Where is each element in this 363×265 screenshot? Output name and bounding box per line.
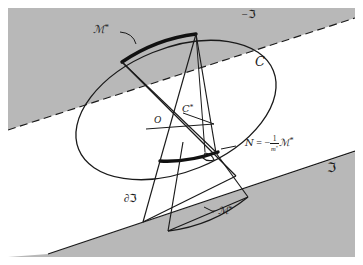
diagram-canvas [0, 0, 363, 265]
figure-root: ℳ* −ℑ C C* O N = −1m*ℳ* ℑ ∂ℑ −ℳ* [0, 0, 363, 265]
n-symbol: N [245, 137, 254, 148]
fraction-numerator: 1 [270, 135, 279, 143]
frak-j-label: ℑ [327, 161, 336, 174]
n-equation-label: N = −1m*ℳ* [245, 135, 294, 152]
origin-label: O [154, 115, 161, 125]
m-star-label: ℳ* [93, 24, 109, 35]
boundary-j-label: ∂ℑ [124, 193, 137, 204]
neg-frak-j-label: −ℑ [241, 9, 256, 20]
c-star-label: C* [182, 104, 193, 114]
curve-c-label: C [255, 55, 265, 68]
fraction: 1m* [270, 135, 279, 152]
fraction-denominator: m* [270, 144, 279, 152]
neg-m-star-label: −ℳ* [212, 206, 232, 216]
